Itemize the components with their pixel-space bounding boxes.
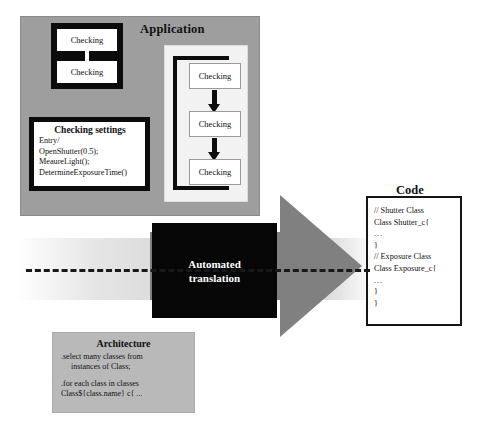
state-flow-panel: Checking Checking Checking xyxy=(164,45,248,202)
code-line: Class Exposure_c{ xyxy=(374,263,460,275)
state-box-top: Checking xyxy=(57,29,117,51)
automated-translation-line2: translation xyxy=(189,272,240,284)
state-connector-line xyxy=(85,51,89,61)
flow-node: Checking xyxy=(189,159,241,185)
flow-loop-bottom-bar xyxy=(173,186,229,190)
architecture-line: instances of Class; xyxy=(53,362,194,372)
architecture-panel: Architecture .select many classes from i… xyxy=(52,332,195,413)
architecture-line: Class${class.name} c{ ... xyxy=(53,389,194,399)
flow-arrow-down-icon xyxy=(212,138,217,153)
flow-arrow-down-icon xyxy=(212,90,217,105)
state-pair-group: Checking Checking xyxy=(51,23,123,89)
checking-settings-title: Checking settings xyxy=(39,125,141,135)
checking-settings-inner: Checking settings Entry/ OpenShutter(0.5… xyxy=(34,122,145,186)
flow-node: Checking xyxy=(189,63,241,89)
application-title: Application xyxy=(140,22,205,37)
code-panel: // Shutter Class Class Shutter_c{ ... } … xyxy=(366,196,462,326)
code-line: ... xyxy=(374,228,460,240)
checking-settings-panel: Checking settings Entry/ OpenShutter(0.5… xyxy=(29,117,150,191)
code-line: } xyxy=(374,240,460,252)
architecture-line: .select many classes from xyxy=(53,352,194,362)
flow-node: Checking xyxy=(189,111,241,137)
code-line: ... xyxy=(374,275,460,287)
code-line: } xyxy=(374,298,460,310)
code-line: // Shutter Class xyxy=(374,205,460,217)
code-line: // Exposure Class xyxy=(374,251,460,263)
checking-settings-line: OpenShutter(0.5); xyxy=(39,147,141,158)
dashed-baseline xyxy=(26,269,370,272)
architecture-title: Architecture xyxy=(53,338,194,349)
checking-settings-line: DetermineExposureTime() xyxy=(39,168,141,179)
code-line: Class Shutter_c{ xyxy=(374,217,460,229)
code-line: } xyxy=(374,286,460,298)
architecture-line: .for each class in classes xyxy=(53,379,194,389)
checking-settings-line: MeaureLight(); xyxy=(39,157,141,168)
diagram-canvas: Application Checking Checking Checking s… xyxy=(0,0,482,432)
checking-settings-line: Entry/ xyxy=(39,136,141,147)
automated-translation-line1: Automated xyxy=(188,258,241,270)
state-box-bottom: Checking xyxy=(57,61,117,83)
